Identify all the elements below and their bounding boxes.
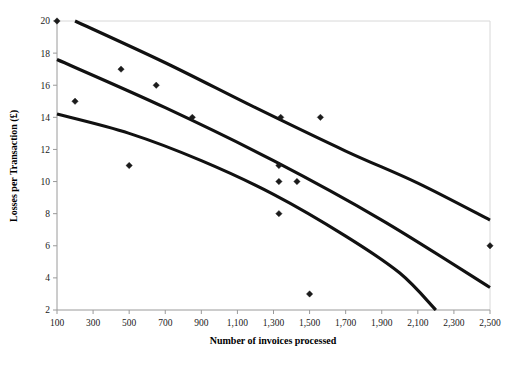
- y-tick-label: 14: [41, 113, 51, 123]
- data-point: [126, 162, 132, 168]
- scatter-chart: 2468101214161820 Losses per Transaction …: [0, 0, 519, 365]
- plot-frame: [57, 21, 490, 310]
- x-tick-label: 500: [122, 318, 137, 328]
- x-tick-label: 100: [50, 318, 65, 328]
- lower-confidence-band: [57, 114, 436, 310]
- chart-svg: 2468101214161820 Losses per Transaction …: [0, 0, 519, 365]
- data-point: [487, 243, 493, 249]
- y-tick-label: 2: [45, 305, 50, 315]
- x-tick-label: 1,100: [227, 318, 249, 328]
- x-tick-label: 700: [158, 318, 173, 328]
- y-tick-label: 10: [41, 177, 51, 187]
- caption-ghost-text: [30, 355, 330, 365]
- data-point: [306, 291, 312, 297]
- x-tick-label: 1,300: [263, 318, 285, 328]
- x-tick-label: 1,500: [299, 318, 321, 328]
- data-point: [276, 178, 282, 184]
- y-tick-label: 16: [41, 81, 51, 91]
- data-point: [72, 98, 78, 104]
- y-tick-label: 4: [45, 273, 50, 283]
- x-tick-label: 2,300: [443, 318, 465, 328]
- regression-line: [57, 60, 490, 288]
- x-tick-label: 1,700: [335, 318, 357, 328]
- y-axis: 2468101214161820 Losses per Transaction …: [8, 16, 57, 315]
- x-axis: 1003005007009001,1001,3001,5001,7001,900…: [50, 310, 501, 346]
- x-tick-label: 300: [86, 318, 101, 328]
- y-tick-label: 8: [45, 209, 50, 219]
- data-point: [294, 178, 300, 184]
- x-tick-label: 900: [194, 318, 209, 328]
- x-tick-label: 2,500: [479, 318, 501, 328]
- x-tick-group: 1003005007009001,1001,3001,5001,7001,900…: [50, 310, 501, 328]
- data-point-group: [54, 18, 493, 297]
- fit-line-group: [57, 21, 490, 310]
- y-tick-group: 2468101214161820: [41, 16, 58, 315]
- y-tick-label: 12: [41, 145, 51, 155]
- data-point: [317, 114, 323, 120]
- x-tick-label: 2,100: [407, 318, 429, 328]
- y-tick-label: 6: [45, 241, 50, 251]
- y-tick-label: 20: [41, 16, 51, 26]
- x-tick-label: 1,900: [371, 318, 393, 328]
- y-tick-label: 18: [41, 49, 51, 59]
- upper-confidence-band: [75, 21, 490, 220]
- data-point: [276, 210, 282, 216]
- data-point: [54, 18, 60, 24]
- x-axis-title: Number of invoices processed: [210, 335, 337, 346]
- y-axis-title: Losses per Transaction (£): [8, 110, 20, 222]
- data-point: [118, 66, 124, 72]
- data-point: [153, 82, 159, 88]
